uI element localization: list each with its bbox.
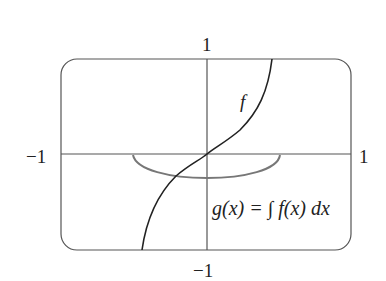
- g-curve-label: g(x) = ∫ f(x) dx: [212, 198, 330, 218]
- y-min-tick-label: −1: [193, 261, 213, 280]
- plot-area: [0, 0, 386, 281]
- x-max-tick-label: 1: [359, 147, 369, 166]
- x-min-tick-label: −1: [26, 147, 46, 166]
- y-max-tick-label: 1: [202, 35, 212, 54]
- f-curve-label: f: [240, 92, 245, 111]
